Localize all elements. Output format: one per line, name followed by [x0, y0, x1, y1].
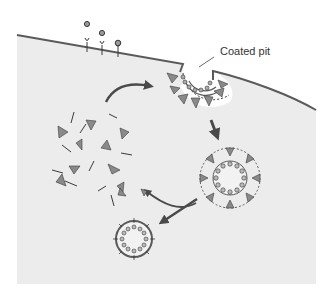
ligand-icon: [84, 21, 89, 26]
coated-pit-label: Coated pit: [220, 45, 320, 57]
cytoplasm: [17, 35, 316, 284]
endocytosis-diagram: Coated pit: [0, 0, 335, 294]
ligand-icon: [99, 30, 104, 35]
uncoated-vesicle: [113, 218, 155, 260]
coated-pit-leader-line: [199, 57, 214, 67]
bound-ligand-icon: [115, 40, 121, 46]
